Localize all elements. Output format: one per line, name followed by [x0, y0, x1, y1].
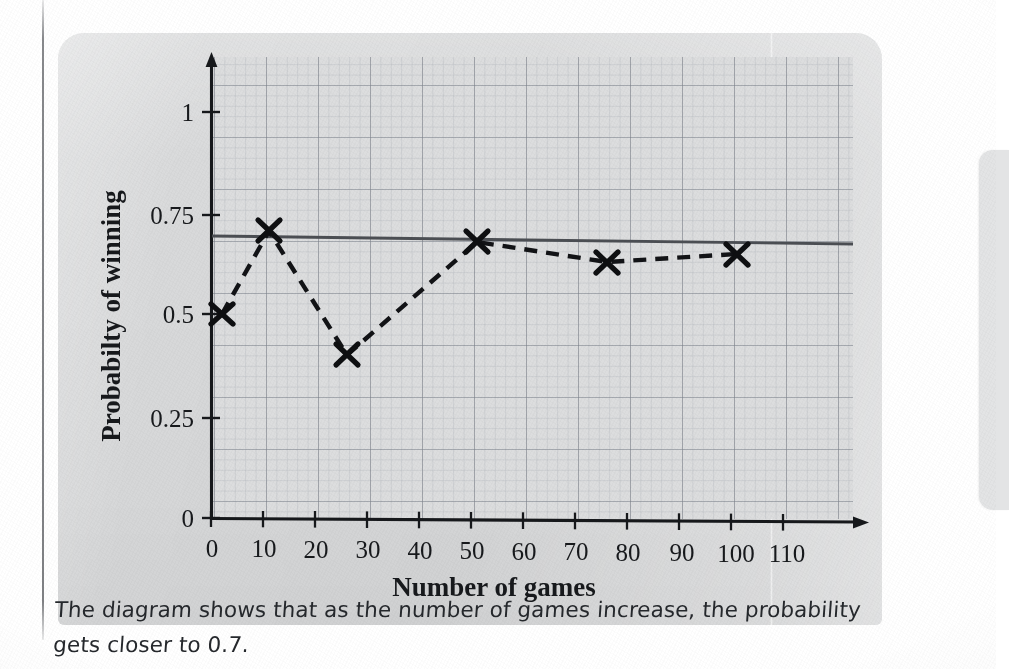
x-tick-label: 10 — [252, 535, 277, 562]
y-tick-label: 0.75 — [150, 202, 194, 229]
x-axis-tick-labels: 0 10 20 30 40 50 60 70 80 90 100 110 — [206, 535, 806, 567]
x-tick-label: 50 — [460, 537, 485, 564]
y-tick-label: 0 — [182, 505, 195, 532]
x-tick-label: 30 — [356, 536, 381, 563]
page-spine-line — [42, 0, 44, 640]
x-tick-label: 0 — [206, 535, 219, 562]
adjacent-page-edge — [979, 150, 1009, 510]
x-tick-label: 40 — [408, 537, 433, 564]
x-tick-label: 80 — [616, 539, 641, 566]
y-tick-label: 1 — [182, 99, 195, 126]
caption-line-2: gets closer to 0.7. — [51, 627, 933, 662]
x-tick-label: 110 — [769, 540, 806, 567]
graph-paper-grid — [213, 57, 853, 519]
x-tick-label: 20 — [304, 536, 329, 563]
x-tick-label: 70 — [564, 538, 589, 565]
y-axis-tick-labels: 1 0.75 0.5 0.25 0 — [150, 99, 194, 532]
caption-line-1: The diagram shows that as the number of … — [54, 592, 936, 627]
x-tick-label: 90 — [670, 539, 695, 566]
x-tick-label: 100 — [717, 540, 755, 567]
y-axis-title: Probabilty of winning — [96, 190, 126, 442]
y-tick-label: 0.25 — [150, 405, 194, 432]
y-tick-label: 0.5 — [163, 301, 194, 328]
probability-line-chart: 1 0.75 0.5 0.25 0 — [58, 33, 882, 625]
x-tick-label: 60 — [512, 538, 537, 565]
figure-caption: The diagram shows that as the number of … — [51, 592, 936, 662]
chart-svg: 1 0.75 0.5 0.25 0 — [58, 33, 882, 625]
